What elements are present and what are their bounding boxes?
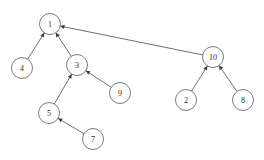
graph-node[interactable]: 2 <box>176 90 197 111</box>
graph-edge <box>86 71 111 88</box>
edge-arrowhead-icon <box>86 71 91 75</box>
graph-edge <box>28 33 45 59</box>
edge-line <box>54 74 71 104</box>
node-label: 3 <box>75 61 79 70</box>
graph-node[interactable]: 7 <box>83 129 104 150</box>
edge-line <box>58 118 84 133</box>
graph-edge <box>192 66 208 91</box>
graph-svg: 1439571028 <box>0 0 264 160</box>
edge-arrowhead-icon <box>203 66 207 71</box>
graph-node[interactable]: 8 <box>233 90 254 111</box>
node-label: 8 <box>241 96 245 105</box>
graph-node[interactable]: 9 <box>110 83 131 104</box>
node-label: 4 <box>20 64 24 73</box>
node-label: 10 <box>209 53 217 62</box>
edge-arrowhead-icon <box>219 66 223 71</box>
edge-line <box>28 33 45 59</box>
edge-line <box>192 66 208 91</box>
edge-arrowhead-icon <box>60 25 65 29</box>
graph-edge <box>219 66 237 92</box>
graph-node[interactable]: 3 <box>67 55 88 76</box>
graph-edge <box>56 33 71 56</box>
edge-line <box>56 33 71 56</box>
graph-node[interactable]: 5 <box>39 103 60 124</box>
edge-line <box>219 66 237 92</box>
graph-edge <box>58 118 84 133</box>
nodes-layer: 1439571028 <box>12 14 254 150</box>
graph-node[interactable]: 1 <box>40 14 61 35</box>
node-label: 9 <box>118 89 122 98</box>
node-label: 2 <box>184 96 188 105</box>
node-label: 1 <box>48 20 52 29</box>
edge-arrowhead-icon <box>56 33 60 38</box>
edge-line <box>86 71 111 88</box>
edge-line <box>60 26 202 55</box>
node-label: 7 <box>91 135 95 144</box>
graph-node[interactable]: 4 <box>12 58 33 79</box>
graph-diagram-canvas: 1439571028 <box>0 0 264 160</box>
graph-edge <box>60 25 202 55</box>
edge-arrowhead-icon <box>40 33 44 38</box>
graph-edge <box>54 74 71 104</box>
edges-layer <box>28 25 237 134</box>
node-label: 5 <box>47 109 51 118</box>
graph-node[interactable]: 10 <box>203 47 224 68</box>
